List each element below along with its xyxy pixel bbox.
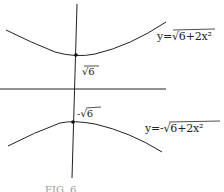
lower-vertex-point — [71, 120, 75, 124]
figure-caption: FIG. 6 — [45, 184, 76, 192]
upper-curve — [6, 22, 166, 56]
lower-curve — [8, 122, 162, 152]
hyperbola-diagram: y=√6+2x² y=-√6+2x² √6 -√6 FIG. 6 — [0, 0, 224, 192]
upper-vertex-label: √6 — [82, 66, 95, 77]
graph-drawing — [0, 0, 224, 192]
lower-vertex-label: -√6 — [77, 108, 93, 119]
upper-curve-equation: y=√6+2x² — [157, 30, 212, 43]
y-axis — [72, 4, 77, 178]
upper-vertex-point — [74, 53, 78, 57]
lower-curve-equation: y=-√6+2x² — [145, 122, 203, 135]
